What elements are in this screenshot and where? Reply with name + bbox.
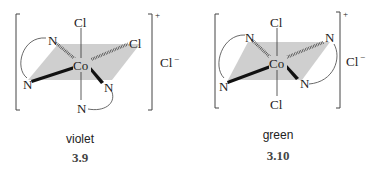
right-bracket — [148, 14, 152, 110]
counterion: Cl — [160, 55, 173, 70]
counterion: Cl — [346, 54, 359, 69]
atom-n-back-left: N — [48, 33, 58, 48]
atom-co: Co — [269, 56, 284, 71]
caption-color: violet — [66, 132, 95, 146]
atom-n-front-left: N — [219, 79, 229, 94]
counterion-charge: − — [174, 54, 179, 64]
atom-n-back-left: N — [245, 30, 255, 45]
atom-co: Co — [73, 58, 88, 73]
atom-n-back-right: N — [325, 30, 335, 45]
caption-color: green — [263, 128, 294, 142]
compound-number: 3.10 — [267, 148, 290, 163]
complex-3-10: + Cl Co N N N N Cl Cl − green 3.10 — [215, 9, 365, 163]
atom-n-front-left: N — [23, 77, 33, 92]
atom-cl-top: Cl — [74, 15, 87, 30]
atom-n-front-right: N — [300, 76, 310, 91]
counterion-charge: − — [360, 52, 365, 62]
left-bracket — [16, 14, 20, 110]
atom-n-bottom: N — [77, 101, 87, 116]
diagram-canvas: + Cl Co N Cl N N N Cl − violet 3.9 + — [0, 0, 371, 176]
atom-cl-bottom: Cl — [270, 97, 283, 112]
atom-cl-back-right: Cl — [129, 36, 142, 51]
charge-plus: + — [343, 9, 348, 19]
atom-cl-top: Cl — [270, 15, 283, 30]
compound-number: 3.9 — [72, 150, 89, 165]
charge-plus: + — [155, 10, 160, 20]
atom-n-front-right: N — [104, 80, 114, 95]
complex-3-9: + Cl Co N Cl N N N Cl − violet 3.9 — [16, 10, 179, 165]
